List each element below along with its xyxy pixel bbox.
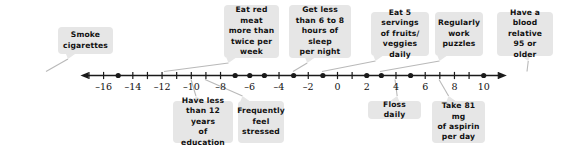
axis-tick-label: 2 (364, 81, 370, 92)
axis-tick-label: –14 (124, 81, 141, 92)
axis-arrow-right (499, 72, 507, 78)
callout-pointer-smoke-cigarettes (66, 54, 75, 59)
callout-blood-relative: Have a blood relative 95 or older (497, 12, 553, 56)
callout-leader-smoke-cigarettes (46, 59, 68, 72)
callout-floss-daily: Floss daily (368, 101, 421, 119)
axis-tick-label: –8 (215, 81, 226, 92)
axis-tick-label: –10 (183, 81, 200, 92)
callout-eat-red-meat: Eat red meat more than twice per week (224, 5, 279, 58)
data-point-dot (247, 73, 252, 78)
axis-tick-label: –16 (95, 81, 112, 92)
callout-leader-blood-relative (527, 61, 528, 72)
callout-leader-eat-five-servings (322, 61, 376, 72)
data-point-dot (291, 73, 296, 78)
data-point-dot (379, 73, 384, 78)
axis-tick-label: 0 (334, 81, 340, 92)
callout-pointer-regularly-work-puzzles (438, 56, 447, 61)
axis-tick-label: 4 (393, 81, 399, 92)
data-point-dot (408, 73, 413, 78)
axis-tick-label: 6 (422, 81, 428, 92)
callout-pointer-get-less-sleep (305, 58, 314, 63)
data-point-dot (364, 73, 369, 78)
data-point-dot (320, 73, 325, 78)
axis-arrow-left (80, 72, 88, 78)
callout-feel-stressed: Frequently feel stressed (238, 101, 284, 143)
callout-take-aspirin: Take 81 mg of aspirin per day (432, 101, 485, 143)
data-point-dot (116, 73, 121, 78)
callout-regularly-work-puzzles: Regularly work puzzles (435, 12, 483, 56)
callout-leader-take-aspirin (439, 80, 449, 97)
number-line-axis (0, 0, 571, 153)
axis-tick-label: –6 (244, 81, 255, 92)
callout-eat-five-servings: Eat 5 servings of fruits/ veggies daily (371, 12, 429, 56)
data-point-dot (262, 73, 267, 78)
axis-tick-label: –2 (303, 81, 314, 92)
callout-leader-regularly-work-puzzles (380, 61, 440, 72)
callout-leader-get-less-sleep (293, 63, 307, 72)
callout-less-education: Have less than 12 years of education (173, 101, 233, 143)
data-point-dot (233, 73, 238, 78)
longevity-number-line-figure: Smoke cigarettesEat red meat more than t… (0, 0, 571, 153)
axis-tick-label: 8 (451, 81, 457, 92)
axis-tick-label: –12 (154, 81, 171, 92)
callout-get-less-sleep: Get less than 6 to 8 hours of sleep per … (289, 5, 351, 58)
callout-smoke-cigarettes: Smoke cigarettes (58, 27, 113, 54)
callout-leader-eat-red-meat (164, 63, 229, 72)
axis-tick-label: –4 (274, 81, 285, 92)
data-point-dot (481, 73, 486, 78)
axis-tick-label: 10 (478, 81, 490, 92)
callout-pointer-eat-red-meat (227, 58, 236, 63)
